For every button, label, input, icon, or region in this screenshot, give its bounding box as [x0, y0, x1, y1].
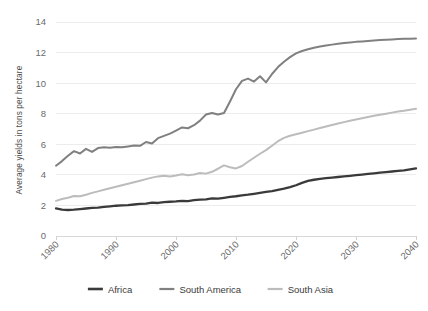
series-line-south-america [56, 39, 416, 166]
y-axis-tick-label: 12 [35, 47, 46, 58]
x-axis-tick-label: 2020 [278, 239, 301, 262]
legend-label: Africa [108, 284, 133, 295]
y-axis-tick-label: 14 [35, 16, 46, 27]
y-axis-tick-label: 4 [41, 169, 46, 180]
gridlines [56, 22, 416, 205]
legend-item-south-asia[interactable]: South Asia [268, 284, 334, 295]
chart-legend: AfricaSouth AmericaSouth Asia [88, 284, 334, 295]
x-axis-tick-label: 2010 [218, 239, 241, 262]
x-axis-tick-label: 2000 [158, 239, 181, 262]
legend-item-south-america[interactable]: South America [159, 284, 241, 295]
y-axis-tick-label: 8 [41, 108, 46, 119]
legend-label: South America [179, 284, 241, 295]
legend-label: South Asia [288, 284, 334, 295]
legend-item-africa[interactable]: Africa [88, 284, 133, 295]
chart-container: 02468101214 1980199020002010202020302040… [0, 0, 428, 311]
x-axis [56, 236, 416, 240]
line-chart: 02468101214 1980199020002010202020302040… [0, 0, 428, 311]
x-axis-tick-label: 2040 [398, 239, 421, 262]
y-axis-tick-label: 0 [41, 230, 46, 241]
x-axis-tick-label: 1990 [98, 239, 121, 262]
y-axis-tick-labels: 02468101214 [35, 16, 46, 241]
x-axis-tick-label: 2030 [338, 239, 361, 262]
data-series [56, 39, 416, 211]
y-axis-tick-label: 10 [35, 78, 46, 89]
y-axis-tick-label: 6 [41, 139, 46, 150]
x-axis-tick-labels: 1980199020002010202020302040 [38, 239, 421, 262]
x-axis-tick-label: 1980 [38, 239, 61, 262]
y-axis-title: Average yields in tons per hectare [15, 65, 24, 194]
series-line-south-asia [56, 109, 416, 201]
y-axis-tick-label: 2 [41, 200, 46, 211]
